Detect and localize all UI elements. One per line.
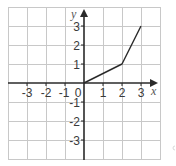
x-tick-label: 2 <box>119 86 126 100</box>
y-axis-arrow-icon <box>80 9 88 17</box>
x-tick-label: -2 <box>41 86 52 100</box>
graph-line <box>84 26 141 83</box>
y-axis-label: y <box>70 7 77 21</box>
y-tick-label: -2 <box>69 115 80 129</box>
y-tick-label: 1 <box>73 58 80 72</box>
coordinate-graph: y x -3 -2 -1 0 1 2 3 3 2 1 -1 -2 -3 <box>0 0 176 166</box>
y-tick-labels: 3 2 1 -1 -2 -3 <box>69 20 80 148</box>
x-tick-label: -1 <box>59 86 70 100</box>
x-axis-label: x <box>150 84 157 98</box>
x-tick-label: -3 <box>22 86 33 100</box>
y-tick-label: -1 <box>69 96 80 110</box>
axes <box>8 9 158 160</box>
edge-artifact <box>173 146 175 150</box>
y-tick-label: -3 <box>69 134 80 148</box>
x-tick-label: 3 <box>138 86 145 100</box>
x-tick-label: 1 <box>100 86 107 100</box>
y-tick-label: 2 <box>73 39 80 53</box>
y-tick-label: 3 <box>73 20 80 34</box>
x-tick-labels: -3 -2 -1 0 1 2 3 <box>22 86 145 100</box>
